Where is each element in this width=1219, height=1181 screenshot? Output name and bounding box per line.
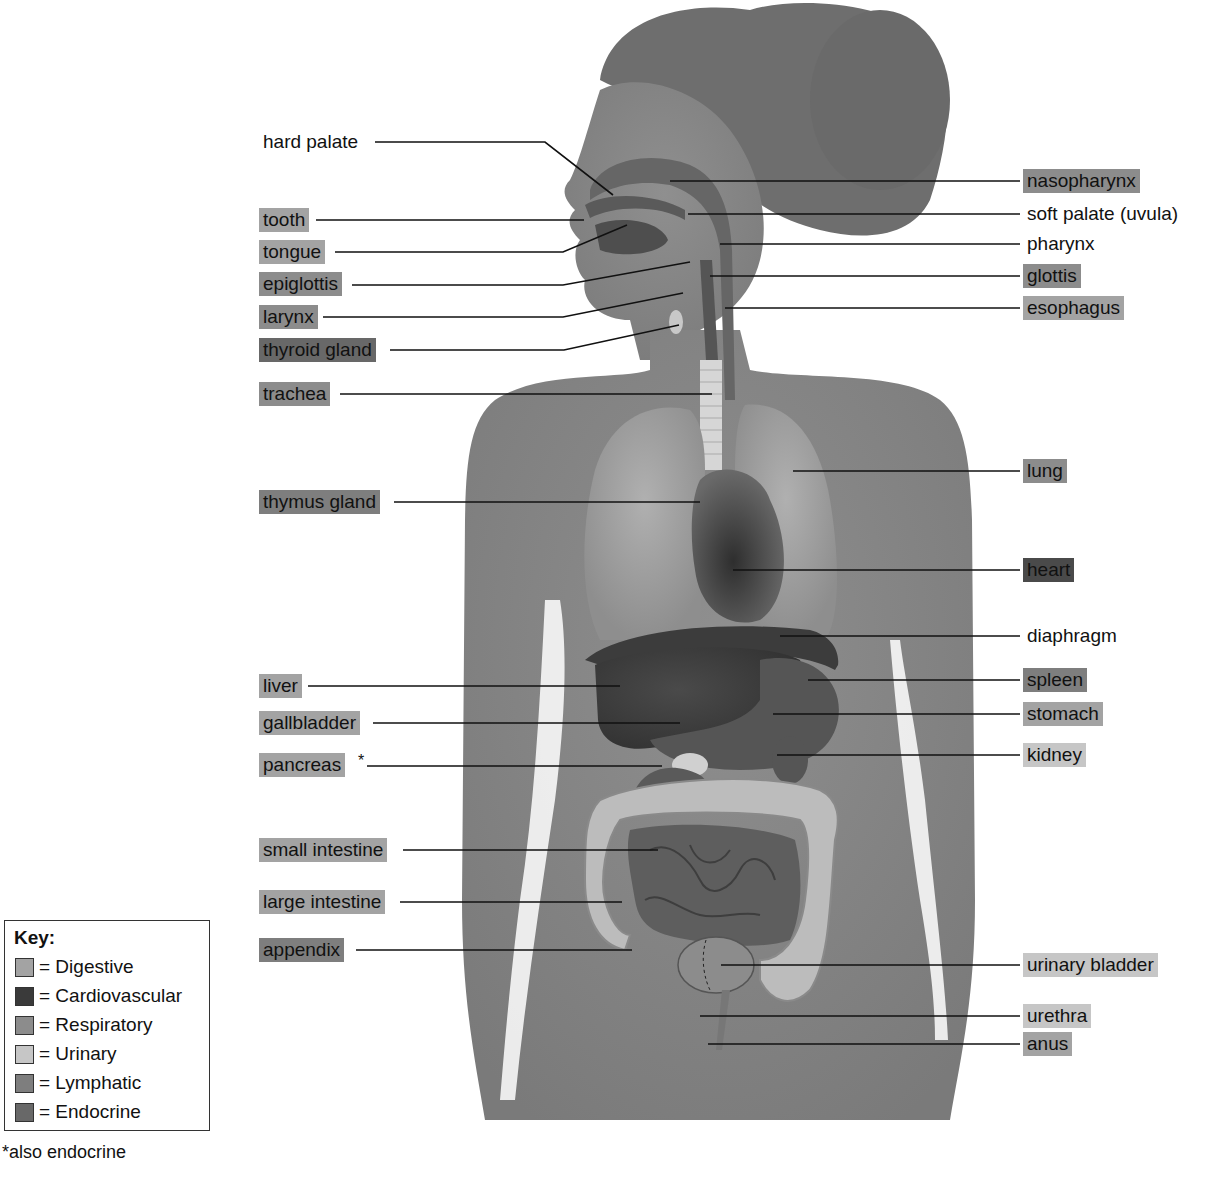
label-thymus-gland: thymus gland (259, 490, 380, 514)
swatch-respiratory-icon (15, 1016, 34, 1035)
label-larynx: larynx (259, 305, 318, 329)
label-soft-palate: soft palate (uvula) (1023, 202, 1182, 226)
swatch-digestive-icon (15, 958, 34, 977)
pancreas-endocrine-marker: * (358, 752, 364, 770)
label-tooth: tooth (259, 208, 309, 232)
label-heart: heart (1023, 558, 1074, 582)
label-urinary-bladder: urinary bladder (1023, 953, 1158, 977)
label-anus: anus (1023, 1032, 1072, 1056)
label-kidney: kidney (1023, 743, 1086, 767)
label-thyroid-gland: thyroid gland (259, 338, 376, 362)
legend-label: = Endocrine (39, 1101, 141, 1123)
label-liver: liver (259, 674, 302, 698)
legend-item-lymphatic: = Lymphatic (15, 1071, 141, 1095)
legend-label: = Lymphatic (39, 1072, 141, 1094)
label-small-intestine: small intestine (259, 838, 387, 862)
label-spleen: spleen (1023, 668, 1087, 692)
label-esophagus: esophagus (1023, 296, 1124, 320)
legend-key: Key: = Digestive = Cardiovascular = Resp… (4, 920, 210, 1131)
legend-item-respiratory: = Respiratory (15, 1013, 153, 1037)
label-tongue: tongue (259, 240, 325, 264)
swatch-lymphatic-icon (15, 1074, 34, 1093)
label-appendix: appendix (259, 938, 344, 962)
label-lung: lung (1023, 459, 1067, 483)
small-intestine (628, 825, 801, 946)
legend-item-cardiovascular: = Cardiovascular (15, 984, 182, 1008)
label-epiglottis: epiglottis (259, 272, 342, 296)
legend-item-digestive: = Digestive (15, 955, 134, 979)
label-hard-palate: hard palate (259, 130, 362, 154)
legend-item-endocrine: = Endocrine (15, 1100, 141, 1124)
label-nasopharynx: nasopharynx (1023, 169, 1140, 193)
legend-title: Key: (14, 927, 55, 949)
label-pancreas: pancreas (259, 753, 345, 777)
label-glottis: glottis (1023, 264, 1081, 288)
label-trachea: trachea (259, 382, 330, 406)
label-stomach: stomach (1023, 702, 1103, 726)
swatch-cardiovascular-icon (15, 987, 34, 1006)
swatch-endocrine-icon (15, 1103, 34, 1122)
label-pharynx: pharynx (1023, 232, 1099, 256)
legend-label: = Digestive (39, 956, 134, 978)
legend-label: = Respiratory (39, 1014, 153, 1036)
label-diaphragm: diaphragm (1023, 624, 1121, 648)
label-large-intestine: large intestine (259, 890, 385, 914)
legend-label: = Urinary (39, 1043, 117, 1065)
label-gallbladder: gallbladder (259, 711, 360, 735)
footnote: *also endocrine (2, 1142, 126, 1163)
legend-label: = Cardiovascular (39, 985, 182, 1007)
swatch-urinary-icon (15, 1045, 34, 1064)
legend-item-urinary: = Urinary (15, 1042, 117, 1066)
label-urethra: urethra (1023, 1004, 1091, 1028)
